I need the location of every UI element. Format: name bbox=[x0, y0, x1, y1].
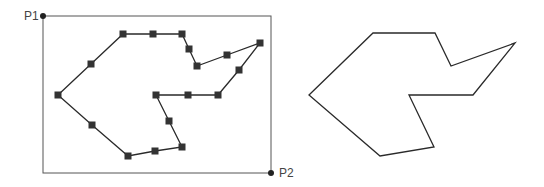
control-point-marker bbox=[186, 46, 193, 53]
control-point-marker bbox=[179, 144, 186, 151]
control-point-marker bbox=[125, 153, 132, 160]
p1-corner-dot bbox=[40, 13, 46, 19]
control-point-marker bbox=[194, 63, 201, 70]
control-point-marker bbox=[89, 122, 96, 129]
control-point-marker bbox=[88, 61, 95, 68]
control-point-marker bbox=[153, 92, 160, 99]
control-point-marker bbox=[179, 31, 186, 38]
control-point-marker bbox=[55, 92, 62, 99]
control-point-marker bbox=[120, 31, 127, 38]
control-point-marker bbox=[215, 92, 222, 99]
control-point-marker bbox=[150, 31, 157, 38]
control-point-markers bbox=[55, 31, 264, 160]
diagram-canvas: P1 P2 bbox=[0, 0, 544, 187]
control-point-marker bbox=[257, 40, 264, 47]
p2-label: P2 bbox=[279, 166, 294, 180]
control-point-marker bbox=[152, 148, 159, 155]
control-point-marker bbox=[236, 67, 243, 74]
p1-label: P1 bbox=[24, 9, 39, 23]
p2-corner-dot bbox=[268, 170, 274, 176]
control-point-marker bbox=[224, 52, 231, 59]
right-polygon bbox=[309, 33, 515, 156]
control-point-marker bbox=[185, 92, 192, 99]
control-point-marker bbox=[166, 118, 173, 125]
